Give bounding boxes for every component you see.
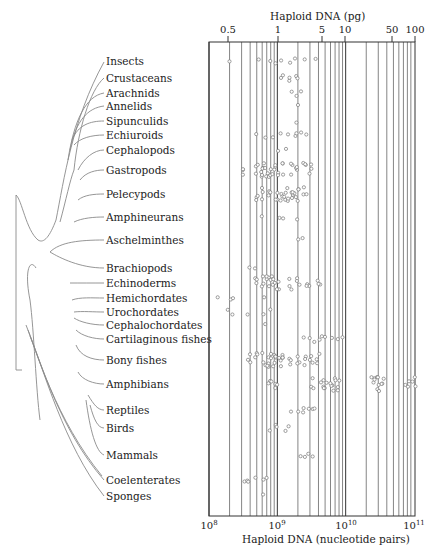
data-point bbox=[269, 191, 272, 194]
data-point bbox=[271, 283, 274, 286]
data-point bbox=[297, 238, 300, 241]
data-point bbox=[302, 411, 305, 414]
data-point bbox=[264, 136, 267, 139]
data-point bbox=[255, 198, 258, 201]
data-point bbox=[330, 336, 333, 339]
bottom-tick-label: 1011 bbox=[403, 519, 425, 531]
data-point bbox=[260, 215, 263, 218]
data-point bbox=[296, 218, 299, 221]
data-point bbox=[318, 352, 321, 355]
data-point bbox=[281, 74, 284, 77]
data-point bbox=[288, 285, 291, 288]
data-point bbox=[270, 380, 273, 383]
data-point bbox=[310, 163, 313, 166]
data-point bbox=[277, 280, 280, 283]
data-point bbox=[228, 60, 231, 63]
plot-area bbox=[0, 0, 441, 552]
data-point bbox=[267, 194, 270, 197]
data-point bbox=[264, 166, 267, 169]
data-point bbox=[303, 58, 306, 61]
data-point bbox=[314, 57, 317, 60]
data-point bbox=[271, 136, 274, 139]
data-point bbox=[287, 197, 290, 200]
data-point bbox=[334, 379, 337, 382]
data-point bbox=[300, 131, 303, 134]
data-point bbox=[312, 387, 315, 390]
data-point bbox=[373, 378, 376, 381]
data-point bbox=[261, 190, 264, 193]
data-point bbox=[310, 355, 313, 358]
data-point bbox=[303, 455, 306, 458]
data-point bbox=[262, 478, 265, 481]
data-point bbox=[269, 308, 272, 311]
data-point bbox=[269, 59, 272, 62]
data-point bbox=[298, 283, 301, 286]
data-point bbox=[216, 296, 219, 299]
data-point bbox=[282, 173, 285, 176]
data-point bbox=[377, 389, 380, 392]
data-point bbox=[246, 313, 249, 316]
data-point bbox=[318, 338, 321, 341]
data-point bbox=[316, 279, 319, 282]
data-point bbox=[284, 147, 287, 150]
data-point bbox=[256, 194, 259, 197]
data-point bbox=[279, 132, 282, 135]
data-point bbox=[267, 285, 270, 288]
data-point bbox=[341, 336, 344, 339]
data-point bbox=[263, 296, 266, 299]
data-point bbox=[319, 381, 322, 384]
data-point bbox=[305, 193, 308, 196]
data-point bbox=[407, 380, 410, 383]
data-point bbox=[276, 383, 279, 386]
data-point bbox=[254, 356, 257, 359]
data-point bbox=[264, 323, 267, 326]
plot-frame bbox=[209, 42, 415, 516]
data-point bbox=[288, 76, 291, 79]
data-point bbox=[289, 61, 292, 64]
data-point bbox=[295, 121, 298, 124]
data-point bbox=[255, 278, 258, 281]
data-point bbox=[255, 133, 258, 136]
data-point bbox=[256, 353, 259, 356]
data-point bbox=[275, 288, 278, 291]
data-point bbox=[290, 288, 293, 291]
data-point bbox=[413, 376, 416, 379]
data-point bbox=[299, 90, 302, 93]
data-point bbox=[260, 198, 263, 201]
data-point bbox=[307, 407, 310, 410]
data-point bbox=[302, 336, 305, 339]
data-point bbox=[260, 170, 263, 173]
data-point bbox=[380, 382, 383, 385]
data-point bbox=[315, 358, 318, 361]
data-point bbox=[308, 358, 311, 361]
data-point bbox=[247, 480, 250, 483]
data-point bbox=[262, 282, 265, 285]
data-point bbox=[281, 162, 284, 165]
data-point bbox=[414, 385, 417, 388]
data-point bbox=[265, 275, 268, 278]
data-point bbox=[295, 132, 298, 135]
data-point bbox=[307, 452, 310, 455]
data-point bbox=[336, 338, 339, 341]
data-point bbox=[254, 476, 257, 479]
data-point bbox=[289, 359, 292, 362]
data-point bbox=[382, 377, 385, 380]
data-point bbox=[296, 199, 299, 202]
bottom-tick-label: 1010 bbox=[335, 519, 357, 531]
data-point bbox=[284, 429, 287, 432]
data-point bbox=[246, 358, 249, 361]
data-point bbox=[295, 94, 298, 97]
data-point bbox=[296, 362, 299, 365]
data-point bbox=[370, 376, 373, 379]
data-point bbox=[302, 407, 305, 410]
data-point bbox=[284, 191, 287, 194]
data-point bbox=[241, 173, 244, 176]
data-point bbox=[305, 133, 308, 136]
bottom-tick-label: 108 bbox=[200, 519, 217, 531]
genome-size-figure: InsectsCrustaceansArachnidsAnnelidsSipun… bbox=[0, 0, 441, 552]
data-point bbox=[226, 308, 229, 311]
data-point bbox=[308, 172, 311, 175]
bottom-tick-label: 109 bbox=[268, 519, 285, 531]
data-point bbox=[313, 340, 316, 343]
data-point bbox=[253, 267, 256, 270]
